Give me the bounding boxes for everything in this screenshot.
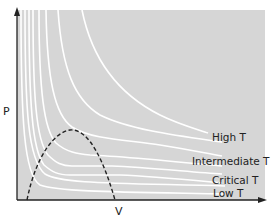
x-axis-label: V [115, 205, 123, 218]
label-critical-t: Critical T [212, 174, 259, 186]
label-high-t: High T [212, 131, 246, 143]
pv-isotherm-diagram: P V High T Intermediate T Critical T Low… [0, 0, 276, 223]
label-low-t: Low T [213, 187, 244, 199]
label-intermediate-t: Intermediate T [192, 155, 270, 167]
y-axis-label: P [3, 105, 10, 118]
